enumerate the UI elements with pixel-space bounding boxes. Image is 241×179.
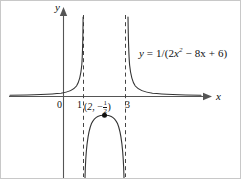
equation-equals-part: = 1/(2: [144, 47, 174, 59]
local-maximum-point-label: (2, −12): [84, 100, 111, 116]
equation-tail: − 8x + 6): [183, 47, 228, 59]
y-axis-arrowhead: [60, 7, 67, 16]
curve-left-branch: [10, 17, 83, 95]
x-tick-label-3: 3: [125, 100, 130, 110]
fraction-denominator: 2: [103, 108, 108, 115]
plot-canvas: [1, 1, 241, 179]
origin-tick-label: 0: [57, 100, 62, 110]
x-tick-label-1: 1: [77, 100, 82, 110]
function-graph-figure: y x 0 1 3 (2, −12) y = 1/(2x2 − 8x + 6): [0, 0, 241, 179]
y-axis-label: y: [55, 2, 60, 13]
point-label-fraction: 12: [103, 100, 108, 116]
equation-label: y = 1/(2x2 − 8x + 6): [139, 47, 227, 59]
x-axis-arrowhead: [203, 93, 212, 100]
curve-middle-branch: [85, 115, 124, 178]
point-label-close-paren: ): [107, 101, 110, 112]
x-axis-label: x: [216, 91, 221, 102]
